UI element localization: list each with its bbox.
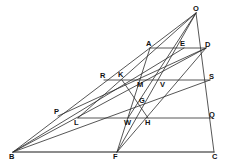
vertex-label-s: S (209, 73, 214, 81)
vertex-label-p: P (54, 108, 59, 116)
vertex-label-b: B (9, 153, 15, 161)
cevian-A-to-F (117, 48, 150, 152)
vertex-label-v: V (160, 81, 165, 89)
vertex-label-r: R (100, 72, 106, 80)
vertex-label-h: H (145, 119, 151, 127)
vertex-label-q: Q (209, 111, 215, 119)
ray-B-to-D (13, 48, 206, 152)
vertex-label-m: M (137, 81, 143, 89)
vertex-label-c: C (212, 153, 218, 161)
vertex-label-k: K (118, 71, 124, 79)
geometry-canvas (0, 0, 233, 167)
vertex-label-w: W (124, 119, 131, 127)
geometry-figure: OAEDRKMVSGPLWHQBFC (0, 0, 233, 167)
vertex-label-l: L (74, 119, 79, 127)
vertex-label-a: A (146, 40, 152, 48)
cevian-O-to-F (117, 13, 196, 152)
vertex-label-f: F (113, 153, 118, 161)
cevian-D-to-F (117, 48, 206, 152)
side-BO (13, 13, 196, 152)
segment-group (13, 13, 214, 152)
vertex-label-e: E (180, 40, 185, 48)
ray-B-to-S (13, 80, 210, 152)
side-OC (196, 13, 214, 152)
vertex-label-d: D (205, 41, 211, 49)
vertex-label-o: O (193, 5, 199, 13)
vertex-label-g: G (139, 97, 145, 105)
